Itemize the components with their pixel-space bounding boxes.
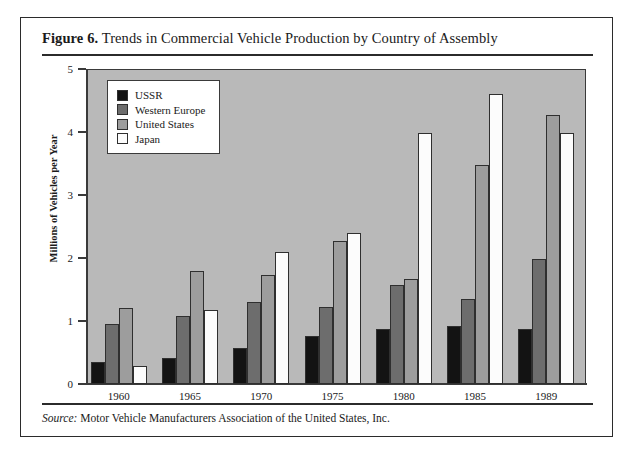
- bar-group: [518, 69, 574, 384]
- bar: [91, 362, 105, 384]
- source-label: Source:: [42, 412, 77, 424]
- bar: [546, 115, 560, 384]
- y-axis-tick-label: 5: [49, 63, 73, 75]
- legend-swatch: [117, 119, 128, 130]
- bar: [532, 259, 546, 384]
- bar: [190, 271, 204, 384]
- y-axis-tick: [78, 383, 86, 385]
- bar: [176, 316, 190, 384]
- y-axis-line: [86, 69, 88, 385]
- bar-group: [447, 69, 503, 384]
- bar: [133, 366, 147, 384]
- x-axis-tick-label: 1960: [79, 390, 159, 402]
- y-axis-tick: [78, 68, 86, 70]
- bar-group: [305, 69, 361, 384]
- bar-group: [233, 69, 289, 384]
- legend-item: Japan: [117, 132, 205, 147]
- x-axis-tick-label: 1965: [150, 390, 230, 402]
- bar: [261, 275, 275, 384]
- bar: [105, 324, 119, 384]
- bar: [404, 279, 418, 384]
- bar: [347, 233, 361, 384]
- legend-swatch: [117, 104, 128, 115]
- legend-item: United States: [117, 117, 205, 132]
- y-axis-tick: [78, 131, 86, 133]
- bar: [333, 241, 347, 384]
- bar: [233, 348, 247, 384]
- legend-swatch: [117, 90, 128, 101]
- bar: [418, 133, 432, 384]
- legend-label: Japan: [135, 133, 160, 145]
- bar: [119, 308, 133, 384]
- y-axis-tick-label: 3: [49, 189, 73, 201]
- legend-label: Western Europe: [135, 104, 205, 116]
- bar: [390, 285, 404, 384]
- bar: [376, 329, 390, 384]
- y-axis-tick-label: 0: [49, 378, 73, 390]
- y-axis-tick-label: 4: [49, 126, 73, 138]
- legend-label: USSR: [135, 89, 163, 101]
- x-axis-tick-label: 1970: [221, 390, 301, 402]
- bar-chart: Millions of Vehicles per Year 012345 196…: [21, 18, 614, 438]
- y-axis-tick-label: 2: [49, 252, 73, 264]
- x-axis-tick-label: 1989: [506, 390, 586, 402]
- x-axis-tick-label: 1985: [435, 390, 515, 402]
- x-axis-tick-label: 1975: [293, 390, 373, 402]
- legend-item: USSR: [117, 88, 205, 103]
- bar: [489, 94, 503, 384]
- bar: [461, 299, 475, 384]
- chart-legend: USSRWestern EuropeUnited StatesJapan: [107, 80, 220, 154]
- legend-item: Western Europe: [117, 103, 205, 118]
- legend-swatch: [117, 133, 128, 144]
- bar: [475, 165, 489, 384]
- source-text: Motor Vehicle Manufacturers Association …: [77, 412, 389, 424]
- bar: [447, 326, 461, 384]
- bar: [560, 133, 574, 384]
- bar: [247, 302, 261, 384]
- bar: [518, 329, 532, 384]
- source-rule: [42, 403, 593, 405]
- bar: [275, 252, 289, 384]
- bar: [204, 310, 218, 384]
- figure-frame: Figure 6. Trends in Commercial Vehicle P…: [20, 17, 613, 437]
- bar: [305, 336, 319, 385]
- x-axis-tick-label: 1980: [364, 390, 444, 402]
- y-axis-tick: [78, 194, 86, 196]
- bar: [319, 307, 333, 384]
- bar-group: [376, 69, 432, 384]
- y-axis-tick: [78, 320, 86, 322]
- y-axis-tick-label: 1: [49, 315, 73, 327]
- bar: [162, 358, 176, 384]
- y-axis-tick: [78, 257, 86, 259]
- source-note: Source: Motor Vehicle Manufacturers Asso…: [42, 412, 390, 424]
- legend-label: United States: [135, 118, 194, 130]
